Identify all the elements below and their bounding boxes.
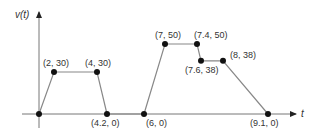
data-point <box>265 111 271 117</box>
data-point <box>162 41 168 47</box>
point-annotation: (7.6, 38) <box>185 65 219 75</box>
point-annotation: (2, 30) <box>43 58 69 68</box>
data-point <box>94 69 100 75</box>
data-point <box>141 111 147 117</box>
data-point <box>194 41 200 47</box>
point-annotation: (7.4, 50) <box>194 30 228 40</box>
data-point <box>51 69 57 75</box>
point-annotation: (9.1, 0) <box>250 118 279 128</box>
point-annotation: (6, 0) <box>146 118 167 128</box>
point-annotation: (4.2, 0) <box>91 118 120 128</box>
data-point <box>220 58 226 64</box>
data-line <box>39 72 107 114</box>
point-annotation: (8, 38) <box>230 50 256 60</box>
point-annotation: (4, 30) <box>85 58 111 68</box>
chart-svg: v(t) t (2, 30)(4, 30)(4.2, 0)(6, 0)(7, 5… <box>0 0 313 136</box>
data-point <box>198 58 204 64</box>
x-axis-label: t <box>301 108 305 119</box>
plot-area: (2, 30)(4, 30)(4.2, 0)(6, 0)(7, 50)(7.4,… <box>36 30 279 128</box>
y-axis-label: v(t) <box>15 9 29 20</box>
velocity-time-chart: v(t) t (2, 30)(4, 30)(4.2, 0)(6, 0)(7, 5… <box>0 0 313 136</box>
data-point <box>104 111 110 117</box>
data-point <box>36 111 42 117</box>
point-annotation: (7, 50) <box>155 30 181 40</box>
